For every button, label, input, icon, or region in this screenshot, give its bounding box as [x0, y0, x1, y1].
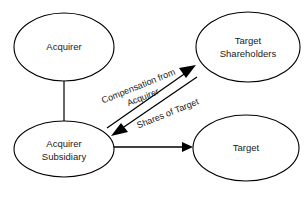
edge-subsidiary-to-target	[114, 142, 193, 152]
node-target[interactable]: Target	[193, 115, 299, 181]
edge-shares-arrowhead	[111, 123, 128, 136]
node-acquirer-subsidiary[interactable]: Acquirer Subsidiary	[14, 121, 114, 177]
node-acquirer-subsidiary-shape[interactable]	[14, 121, 114, 177]
diagram-canvas: Acquirer Target Shareholders Acquirer Su…	[0, 0, 308, 197]
edge-subsidiary-to-target-arrowhead	[182, 142, 193, 152]
node-acquirer[interactable]: Acquirer	[14, 13, 114, 81]
node-acquirer-subsidiary-label-line2: Subsidiary	[42, 151, 87, 162]
node-target-shareholders[interactable]: Target Shareholders	[196, 12, 300, 82]
acquisition-structure-diagram: Acquirer Target Shareholders Acquirer Su…	[0, 0, 308, 197]
node-acquirer-subsidiary-label-line1: Acquirer	[46, 138, 81, 149]
node-target-shareholders-label-line1: Target	[235, 35, 262, 46]
node-acquirer-label: Acquirer	[46, 41, 81, 52]
node-target-shareholders-label-line2: Shareholders	[220, 48, 277, 59]
node-target-label: Target	[233, 142, 260, 153]
